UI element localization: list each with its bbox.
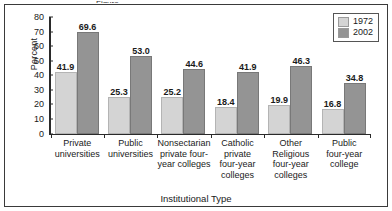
legend-swatch-icon-2002 <box>338 28 349 38</box>
bar-1972: 25.3 <box>108 97 130 134</box>
y-tick-label: 40 <box>34 70 49 80</box>
y-tick-label: 30 <box>34 85 49 95</box>
bar-group: 25.353.0 <box>104 18 157 134</box>
y-tick-label: 10 <box>34 114 49 124</box>
legend-item-1972: 1972 <box>338 16 373 27</box>
plot-area: 01020304050607080 41.969.625.353.025.244… <box>49 17 371 135</box>
bar-1972: 41.9 <box>55 72 77 133</box>
bar-value-label: 44.6 <box>186 59 204 69</box>
bar-group: 19.946.3 <box>264 18 317 134</box>
bar-value-label: 46.3 <box>292 56 310 66</box>
bar-value-label: 25.2 <box>164 87 182 97</box>
bar-value-label: 41.9 <box>239 62 257 72</box>
bar-2002: 41.9 <box>237 72 259 133</box>
bar-group: 41.969.6 <box>51 18 104 134</box>
chart-frame: Percent 01020304050607080 41.969.625.353… <box>4 4 388 207</box>
bar-value-label: 41.9 <box>57 62 75 72</box>
bar-2002: 46.3 <box>290 66 312 133</box>
category-label-line: colleges <box>259 170 322 181</box>
legend: 1972 2002 <box>333 13 379 42</box>
bar-2002: 53.0 <box>130 56 152 133</box>
y-tick-label: 50 <box>34 56 49 66</box>
category-label: Publicfour-yearcollege <box>313 138 376 170</box>
bar-1972: 19.9 <box>268 105 290 134</box>
bar-value-label: 53.0 <box>132 46 150 56</box>
legend-swatch-icon-1972 <box>338 17 349 27</box>
category-label-line: Public <box>313 138 376 149</box>
legend-label-1972: 1972 <box>353 16 373 27</box>
cropped-title-remnant: Figure <box>96 0 216 3</box>
bar-value-label: 69.6 <box>79 22 97 32</box>
category-label-line: four-year <box>313 149 376 160</box>
y-tick-label: 60 <box>34 41 49 51</box>
bar-2002: 69.6 <box>77 32 99 133</box>
y-tick-label: 0 <box>39 129 49 139</box>
x-axis-title: Institutional Type <box>5 193 387 204</box>
bar-1972: 25.2 <box>161 97 183 134</box>
bar-value-label: 19.9 <box>270 95 288 105</box>
bar-group: 18.441.9 <box>211 18 264 134</box>
bar-value-label: 25.3 <box>110 87 128 97</box>
y-tick-label: 70 <box>34 27 49 37</box>
bar-2002: 34.8 <box>344 83 366 134</box>
bar-1972: 18.4 <box>215 107 237 134</box>
bar-value-label: 34.8 <box>346 73 364 83</box>
bar-2002: 44.6 <box>183 69 205 134</box>
y-tick-label: 80 <box>34 12 49 22</box>
bar-value-label: 16.8 <box>324 99 342 109</box>
category-label-line: college <box>313 159 376 170</box>
chart-figure: Figure Percent 01020304050607080 41.969.… <box>0 0 392 211</box>
bar-value-label: 18.4 <box>217 97 235 107</box>
bar-1972: 16.8 <box>322 109 344 133</box>
y-tick-label: 20 <box>34 99 49 109</box>
legend-item-2002: 2002 <box>338 27 373 38</box>
legend-label-2002: 2002 <box>353 27 373 38</box>
bar-group: 25.244.6 <box>157 18 210 134</box>
